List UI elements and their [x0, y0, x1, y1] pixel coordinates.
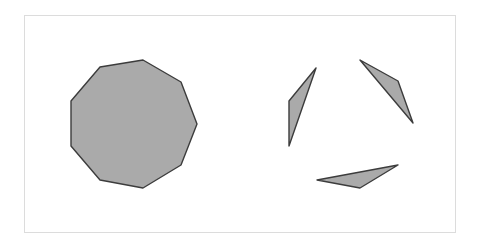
- figure-canvas: [0, 0, 479, 243]
